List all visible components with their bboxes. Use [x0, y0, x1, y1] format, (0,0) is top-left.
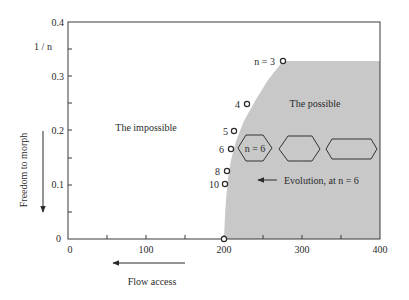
y-tick-label: 0.3	[52, 71, 65, 82]
y-axis-ticks	[68, 49, 72, 212]
y-tick-label: 0.4	[52, 17, 65, 28]
point-marker	[224, 168, 229, 173]
possible-label: The possible	[290, 98, 341, 109]
point-marker	[231, 128, 236, 133]
x-axis-title: Flow access	[128, 276, 177, 287]
point-marker	[228, 146, 233, 151]
point-label-10: 10	[209, 179, 219, 190]
point-label-4: 4	[235, 99, 240, 110]
point-label-8: 8	[215, 166, 220, 177]
constructal-chart: 0 100 200 300 400 0 0.1 0.2 0.3 0.4 1 / …	[0, 0, 409, 300]
x-tick-label: 100	[139, 244, 154, 255]
hexagon-label: n = 6	[245, 143, 266, 154]
point-marker	[222, 181, 227, 186]
impossible-label: The impossible	[115, 122, 177, 133]
point-label-n3: n = 3	[254, 56, 275, 67]
y-tick-label: 0	[56, 233, 61, 244]
point-marker	[244, 101, 249, 106]
y-axis-title: Freedom to morph	[18, 133, 29, 207]
point-marker	[280, 58, 285, 63]
y-tick-label: 0.1	[52, 179, 65, 190]
x-tick-label: 300	[295, 244, 310, 255]
x-tick-label: 400	[373, 244, 388, 255]
point-marker	[221, 236, 226, 241]
evolution-label: Evolution, at n = 6	[284, 175, 359, 186]
y-inner-label: 1 / n	[34, 41, 52, 52]
point-label-5: 5	[223, 126, 228, 137]
point-label-6: 6	[219, 144, 224, 155]
x-tick-label: 0	[68, 244, 73, 255]
y-tick-label: 0.2	[52, 125, 65, 136]
x-tick-label: 200	[217, 244, 232, 255]
